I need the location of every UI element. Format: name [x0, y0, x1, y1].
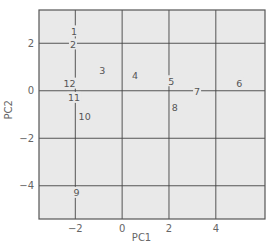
y-tick-label: −4: [19, 180, 34, 191]
x-tick-label: 4: [213, 223, 219, 234]
x-axis-label: PC1: [132, 232, 151, 243]
x-tick-label: 2: [166, 223, 172, 234]
y-tick-label: 0: [28, 85, 34, 96]
data-point-label: 7: [194, 86, 200, 97]
y-tick-label: −2: [19, 133, 34, 144]
data-point-label: 11: [68, 92, 80, 103]
data-point-label: 2: [70, 39, 76, 50]
data-point-label: 6: [236, 78, 242, 89]
y-axis-label: PC2: [3, 100, 14, 119]
data-point-label: 1: [71, 26, 77, 37]
data-point-label: 10: [79, 111, 91, 122]
x-tick-label: −2: [68, 223, 83, 234]
data-point-label: 8: [172, 102, 178, 113]
x-tick-label: 0: [119, 223, 125, 234]
data-point-label: 9: [73, 187, 79, 198]
data-point-label: 4: [132, 70, 138, 81]
pca-scatter-chart: −2024 −4−202 123456789101112 PC1 PC2: [0, 0, 279, 250]
y-axis-ticks: −4−202: [19, 38, 34, 192]
y-tick-label: 2: [28, 38, 34, 49]
data-point-label: 12: [63, 78, 75, 89]
data-point-label: 5: [168, 76, 174, 87]
data-point-label: 3: [99, 65, 105, 76]
